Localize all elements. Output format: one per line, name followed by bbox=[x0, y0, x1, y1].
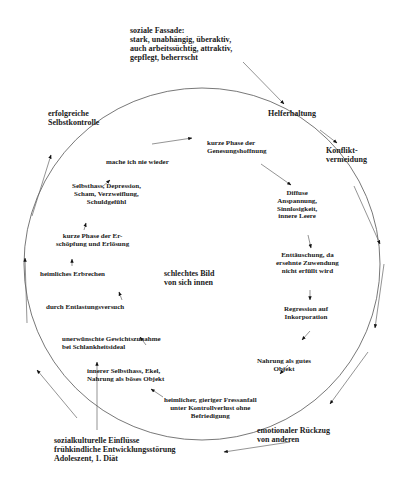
cycle-step-6: heimlicher, gieriger Fressanfall unter K… bbox=[164, 397, 257, 420]
cycle-step-5: Nahrung als gutes Objekt bbox=[257, 358, 311, 374]
label-social-facade: soziale Fassade: stark, unabhängig, über… bbox=[130, 27, 232, 63]
cycle-step-13: mache ich nie wieder bbox=[106, 159, 169, 167]
label-emotional-withdrawal: emotionaler Rückzug von anderen bbox=[257, 427, 330, 445]
bulimia-cycle-diagram: soziale Fassade: stark, unabhängig, über… bbox=[0, 0, 402, 489]
cycle-step-2: Diffuse Anspannung, Sinnlosigkeit, inner… bbox=[277, 190, 317, 221]
label-sociocultural-influences: sozialkulturelle Einflüsse frühkindliche… bbox=[54, 437, 176, 464]
label-conflict-avoidance: Konflikt- vermeidung bbox=[326, 147, 367, 165]
label-helper-attitude: Helferhaltung bbox=[268, 110, 316, 119]
cycle-step-4: Regression auf Inkorporation bbox=[284, 306, 328, 322]
cycle-step-1: kurze Phase der Genesungshoffnung bbox=[207, 140, 267, 156]
cycle-step-12: Selbsthass, Depression, Scham, Verzweifl… bbox=[72, 183, 141, 206]
cycle-step-8: unerwünschte Gewichtszunahme bei Schlank… bbox=[62, 336, 161, 352]
label-center-bad-self-image: schlechtes Bild von sich innen bbox=[164, 270, 214, 288]
cycle-step-9: durch Entlastungsversuch bbox=[46, 304, 124, 312]
cycle-step-11: kurze Phase der Er- schöpfung und Erlösu… bbox=[56, 233, 129, 249]
cycle-step-7: innerer Selbsthass, Ekel, Nahrung als bö… bbox=[87, 368, 164, 384]
cycle-step-3: Enttäuschung, da ersehnte Zuwendung nich… bbox=[276, 252, 339, 275]
label-successful-self-control: erfolgreiche Selbstkontrolle bbox=[48, 110, 99, 128]
cycle-step-10: heimliches Erbrechen bbox=[40, 271, 105, 279]
